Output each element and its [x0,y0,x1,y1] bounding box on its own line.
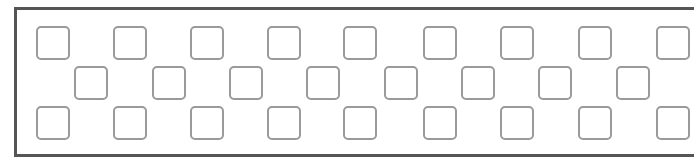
rounded-square-bottom-5 [343,106,377,140]
rounded-square-middle-3 [229,66,263,100]
rounded-square-bottom-4 [267,106,301,140]
rounded-square-bottom-8 [578,106,612,140]
rounded-square-top-3 [190,26,224,60]
rounded-square-bottom-1 [36,106,70,140]
rounded-square-bottom-7 [500,106,534,140]
rounded-square-top-7 [500,26,534,60]
rounded-square-middle-4 [306,66,340,100]
rounded-square-middle-7 [538,66,572,100]
rounded-square-middle-2 [152,66,186,100]
rounded-square-middle-6 [461,66,495,100]
rounded-square-top-6 [423,26,457,60]
rounded-square-middle-8 [616,66,650,100]
rounded-square-bottom-6 [423,106,457,140]
rounded-square-top-1 [36,26,70,60]
rounded-square-middle-1 [74,66,108,100]
rounded-square-top-8 [578,26,612,60]
rounded-square-top-2 [113,26,147,60]
rounded-square-middle-5 [384,66,418,100]
rounded-square-bottom-2 [113,106,147,140]
rounded-square-top-5 [343,26,377,60]
rounded-square-bottom-3 [190,106,224,140]
rounded-square-top-9 [656,26,690,60]
rounded-square-bottom-9 [656,106,690,140]
rounded-square-top-4 [267,26,301,60]
